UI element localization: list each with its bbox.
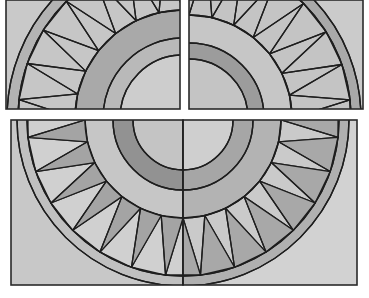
sunburst-quilt-artwork [0, 0, 369, 298]
